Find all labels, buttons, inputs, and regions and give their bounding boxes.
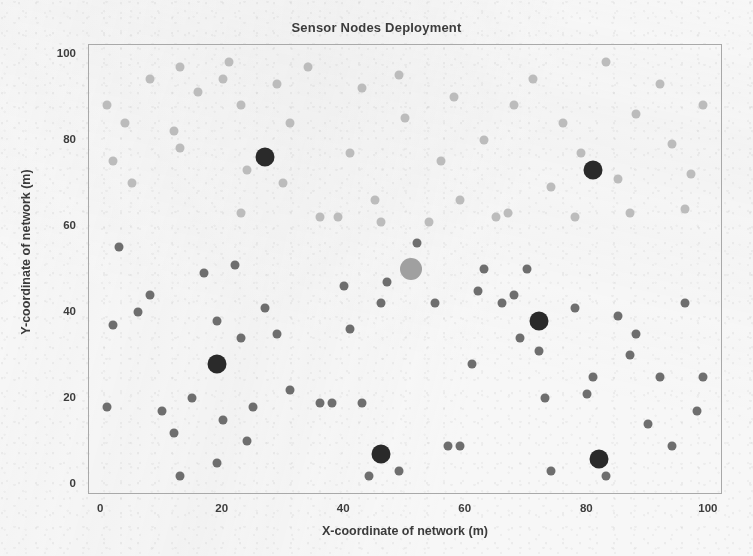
sensor-node <box>157 407 166 416</box>
sensor-node <box>273 79 282 88</box>
sensor-node <box>170 428 179 437</box>
sensor-node <box>236 101 245 110</box>
sensor-node <box>625 209 634 218</box>
sensor-node <box>346 148 355 157</box>
y-tick-label: 20 <box>63 391 76 403</box>
sensor-node <box>109 157 118 166</box>
sensor-node <box>285 385 294 394</box>
sensor-node <box>103 402 112 411</box>
sensor-node <box>364 471 373 480</box>
sensor-node <box>249 402 258 411</box>
sensor-node <box>467 359 476 368</box>
x-tick-label: 100 <box>698 502 717 514</box>
sensor-node <box>498 299 507 308</box>
sensor-node <box>285 118 294 127</box>
sensor-node <box>516 333 525 342</box>
sensor-node <box>176 471 185 480</box>
sensor-node <box>584 160 603 179</box>
sensor-node <box>127 178 136 187</box>
x-tick-label: 20 <box>215 502 228 514</box>
sensor-node <box>394 71 403 80</box>
sensor-node <box>394 467 403 476</box>
sensor-node <box>601 58 610 67</box>
sensor-node <box>590 449 609 468</box>
sensor-node <box>692 407 701 416</box>
sensor-node <box>522 265 531 274</box>
sensor-node <box>328 398 337 407</box>
y-tick-label: 100 <box>57 47 76 59</box>
sensor-node <box>480 135 489 144</box>
sensor-node <box>243 165 252 174</box>
x-tick-label: 80 <box>580 502 593 514</box>
sensor-deployment-figure: Sensor Nodes Deployment 0204060801000204… <box>0 0 753 556</box>
sensor-node <box>340 282 349 291</box>
sensor-node <box>534 346 543 355</box>
sensor-node <box>200 269 209 278</box>
sensor-node <box>437 157 446 166</box>
sensor-node <box>145 75 154 84</box>
sensor-node <box>589 372 598 381</box>
x-tick-label: 0 <box>97 502 103 514</box>
y-tick-label: 60 <box>63 219 76 231</box>
sensor-node <box>631 329 640 338</box>
sensor-node <box>243 437 252 446</box>
sensor-node <box>601 471 610 480</box>
sensor-node <box>492 213 501 222</box>
sensor-node <box>510 290 519 299</box>
sensor-node <box>133 308 142 317</box>
sensor-node <box>668 441 677 450</box>
sensor-node <box>473 286 482 295</box>
sensor-node <box>358 84 367 93</box>
sensor-node <box>668 140 677 149</box>
sensor-node <box>431 299 440 308</box>
page-title: Sensor Nodes Deployment <box>0 20 753 35</box>
sensor-node <box>170 127 179 136</box>
sensor-node <box>376 299 385 308</box>
sensor-node <box>631 109 640 118</box>
sensor-node <box>121 118 130 127</box>
plot-area <box>88 44 722 494</box>
sensor-node <box>236 209 245 218</box>
sensor-node <box>315 213 324 222</box>
sensor-node <box>443 441 452 450</box>
sensor-node <box>194 88 203 97</box>
sensor-node <box>358 398 367 407</box>
sensor-node <box>188 394 197 403</box>
sensor-node <box>334 213 343 222</box>
sensor-node <box>583 389 592 398</box>
x-axis-label: X-coordinate of network (m) <box>88 524 722 538</box>
y-tick-label: 40 <box>63 305 76 317</box>
sensor-node <box>571 303 580 312</box>
sensor-node <box>413 239 422 248</box>
sensor-node <box>212 458 221 467</box>
sensor-node <box>400 258 422 280</box>
sensor-node <box>176 62 185 71</box>
sensor-node <box>145 290 154 299</box>
sensor-node <box>382 277 391 286</box>
sensor-node <box>218 415 227 424</box>
sensor-node <box>401 114 410 123</box>
sensor-node <box>371 445 390 464</box>
sensor-node <box>698 372 707 381</box>
y-tick-label: 80 <box>63 133 76 145</box>
sensor-node <box>656 79 665 88</box>
sensor-node <box>577 148 586 157</box>
sensor-node <box>176 144 185 153</box>
sensor-node <box>256 148 275 167</box>
sensor-node <box>504 209 513 218</box>
sensor-node <box>571 213 580 222</box>
sensor-node <box>455 196 464 205</box>
sensor-node <box>449 92 458 101</box>
sensor-node <box>279 178 288 187</box>
sensor-node <box>480 265 489 274</box>
sensor-node <box>529 311 548 330</box>
sensor-node <box>686 170 695 179</box>
sensor-node <box>315 398 324 407</box>
sensor-node <box>559 118 568 127</box>
sensor-node <box>528 75 537 84</box>
sensor-node <box>236 333 245 342</box>
x-tick-label: 60 <box>458 502 471 514</box>
sensor-node <box>115 243 124 252</box>
sensor-node <box>425 217 434 226</box>
x-tick-label: 40 <box>337 502 350 514</box>
